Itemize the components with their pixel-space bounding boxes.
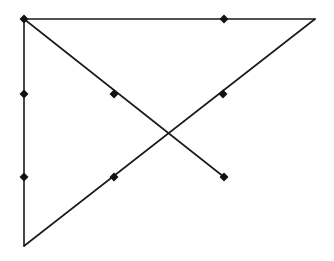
hypotenuse-upper-point-diamond-icon [219, 90, 228, 99]
left-edge-upper-point-diamond-icon [20, 90, 29, 99]
left-edge-lower-point-diamond-icon [20, 173, 29, 182]
line-group [24, 19, 315, 246]
top-edge-point-diamond-icon [220, 15, 229, 24]
diagonal-line [24, 19, 224, 177]
diagram-canvas [0, 0, 334, 261]
diagonal-mid-point-diamond-icon [110, 90, 119, 99]
triangle-diagram [0, 0, 334, 261]
